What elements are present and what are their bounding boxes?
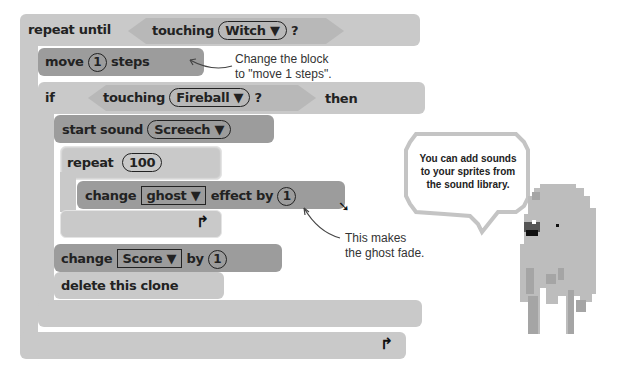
move-annotation: Change the block to "move 1 steps". (235, 52, 332, 82)
speech-bubble-text: You can add sounds to your sprites from … (418, 152, 518, 191)
ghost-sprite (518, 184, 608, 340)
